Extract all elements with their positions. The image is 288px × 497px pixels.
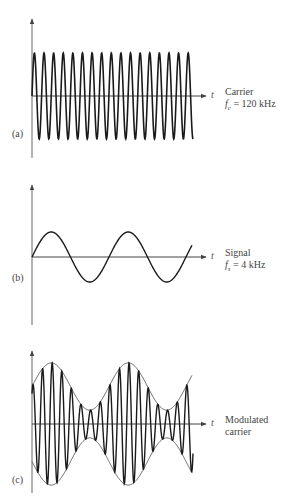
- panel-b-axes: [32, 185, 206, 325]
- panel-c-caption: Modulated carrier: [225, 414, 268, 438]
- panel-b-caption: Signal fs = 4 kHz: [225, 247, 265, 275]
- panel-b-t-label: t: [211, 250, 214, 261]
- modulated-title-line2: carrier: [225, 426, 268, 438]
- panel-c-axes: [32, 351, 206, 493]
- carrier-frequency: fc = 120 kHz: [225, 98, 276, 114]
- panel-b-tag: (b): [12, 272, 24, 283]
- modulated-title: Modulated: [225, 414, 268, 426]
- signal-frequency: fs = 4 kHz: [225, 259, 265, 275]
- panel-a-caption: Carrier fc = 120 kHz: [225, 86, 276, 114]
- panel-a-t-label: t: [211, 89, 214, 100]
- modulated-waveform: [32, 363, 193, 484]
- carrier-title: Carrier: [225, 86, 276, 98]
- panel-a-tag: (a): [12, 128, 23, 139]
- panel-c-t-label: t: [211, 417, 214, 428]
- panel-c-tag: (c): [12, 474, 23, 485]
- panel-a-axes: [32, 19, 206, 158]
- signal-title: Signal: [225, 247, 265, 259]
